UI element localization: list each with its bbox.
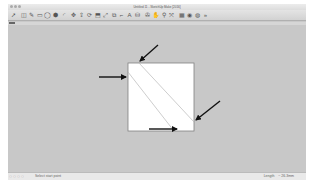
more-tools-icon[interactable]: » (202, 12, 209, 19)
window-controls (10, 5, 21, 8)
tools-toolbar: ➚◫✎▭◯⬢◜✥⇪⟳⬒⤢⧉⌐A⛁✇✋⚲⤧▦◉◍» (8, 10, 306, 21)
status-hint: Select start point (35, 173, 61, 180)
warehouse-icon[interactable]: ▦ (178, 12, 185, 19)
drawing-canvas[interactable] (8, 25, 306, 172)
help-icon[interactable]: ◌ (21, 174, 24, 179)
rotate-tool-icon[interactable]: ⟳ (86, 12, 93, 19)
window-title: Untitled 11 - SketchUp Make [2016] (133, 5, 180, 9)
close-button[interactable] (10, 5, 13, 8)
square-face[interactable] (128, 63, 194, 131)
extension-warehouse-icon[interactable]: ◉ (186, 12, 193, 19)
eraser-tool-icon[interactable]: ◫ (20, 12, 27, 19)
push-pull-tool-icon[interactable]: ⇪ (78, 12, 85, 19)
arrow-annotation-right (196, 101, 220, 120)
measurement-value[interactable]: ~ 26.3mm (278, 174, 294, 178)
follow-me-tool-icon[interactable]: ⬒ (94, 12, 101, 19)
geo-location-icon[interactable]: ◌ (9, 174, 12, 179)
model-view[interactable] (8, 25, 306, 172)
paint-bucket-tool-icon[interactable]: ⛁ (134, 12, 141, 19)
tape-measure-tool-icon[interactable]: ⌐ (118, 12, 125, 19)
pencil-line-tool-icon[interactable]: ✎ (28, 12, 35, 19)
status-bar: ◌ ◌ ◌ ◌ Select start point Length ~ 26.3… (8, 172, 306, 180)
layout-icon[interactable]: ◍ (194, 12, 201, 19)
credits-icon[interactable]: ◌ (13, 174, 16, 179)
orbit-tool-icon[interactable]: ✇ (144, 12, 151, 19)
measurements-box[interactable]: Length ~ 26.3mm (264, 173, 294, 180)
rectangle-tool-icon[interactable]: ▭ (36, 12, 43, 19)
select-tool-icon[interactable]: ➚ (10, 12, 17, 19)
text-tool-icon[interactable]: A (126, 12, 133, 19)
minimize-button[interactable] (14, 5, 17, 8)
sketchup-window: Untitled 11 - SketchUp Make [2016] ➚◫✎▭◯… (8, 4, 306, 180)
arc-tool-icon[interactable]: ◜ (60, 12, 67, 19)
zoom-button[interactable] (18, 5, 21, 8)
zoom-tool-icon[interactable]: ⚲ (160, 12, 167, 19)
measurement-label: Length (264, 174, 275, 178)
zoom-extents-tool-icon[interactable]: ⤧ (168, 12, 175, 19)
status-icons: ◌ ◌ ◌ ◌ (9, 174, 24, 179)
pan-tool-icon[interactable]: ✋ (152, 12, 159, 19)
default-tray-label (9, 22, 15, 24)
move-tool-icon[interactable]: ✥ (70, 12, 77, 19)
offset-tool-icon[interactable]: ⧉ (110, 12, 117, 19)
polygon-tool-icon[interactable]: ⬢ (52, 12, 59, 19)
scale-tool-icon[interactable]: ⤢ (102, 12, 109, 19)
user-icon[interactable]: ◌ (17, 174, 20, 179)
arrow-annotation-top (140, 45, 158, 61)
circle-tool-icon[interactable]: ◯ (44, 12, 51, 19)
